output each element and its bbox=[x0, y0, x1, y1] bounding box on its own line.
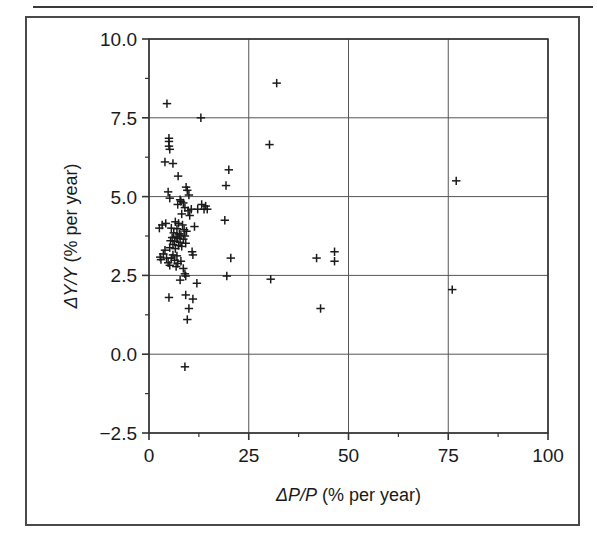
data-point bbox=[176, 276, 184, 284]
data-point bbox=[166, 194, 174, 202]
data-point bbox=[197, 114, 205, 122]
x-tick-label: 75 bbox=[438, 445, 459, 466]
x-tick-label: 50 bbox=[338, 445, 359, 466]
data-point bbox=[448, 285, 456, 293]
y-tick-label: 0.0 bbox=[111, 344, 137, 365]
data-point bbox=[227, 254, 235, 262]
data-point bbox=[189, 295, 197, 303]
data-point bbox=[178, 221, 186, 229]
data-point bbox=[452, 177, 460, 185]
data-point bbox=[185, 211, 193, 219]
x-tick-label: 0 bbox=[144, 445, 155, 466]
data-point bbox=[161, 158, 169, 166]
data-point bbox=[225, 166, 233, 174]
data-point bbox=[265, 140, 273, 148]
data-points bbox=[155, 79, 460, 371]
data-point bbox=[164, 188, 172, 196]
x-tick-label: 100 bbox=[532, 445, 564, 466]
data-point bbox=[182, 291, 190, 299]
data-point bbox=[181, 363, 189, 371]
y-tick-label: 7.5 bbox=[111, 108, 137, 129]
plot-axes bbox=[142, 39, 548, 440]
data-point bbox=[223, 272, 231, 280]
data-point bbox=[221, 216, 229, 224]
top-rule-divider bbox=[33, 6, 593, 8]
y-tick-label: 10.0 bbox=[100, 29, 137, 50]
data-point bbox=[222, 181, 230, 189]
data-point bbox=[165, 293, 173, 301]
scatter-chart: −2.50.02.55.07.510.00255075100ΔP/P (% pe… bbox=[27, 18, 578, 524]
figure-page: −2.50.02.55.07.510.00255075100ΔP/P (% pe… bbox=[0, 0, 597, 536]
y-axis-title: ΔY/Y (% per year) bbox=[61, 163, 81, 309]
figure-frame: −2.50.02.55.07.510.00255075100ΔP/P (% pe… bbox=[25, 16, 580, 526]
data-point bbox=[183, 315, 191, 323]
data-point bbox=[266, 275, 274, 283]
data-point bbox=[185, 304, 193, 312]
y-tick-label: 2.5 bbox=[111, 265, 137, 286]
data-point bbox=[174, 172, 182, 180]
x-tick-label: 25 bbox=[238, 445, 259, 466]
data-point bbox=[169, 159, 177, 167]
data-point bbox=[330, 257, 338, 265]
x-axis-title: ΔP/P (% per year) bbox=[275, 485, 421, 505]
data-point bbox=[330, 248, 338, 256]
data-point bbox=[185, 191, 193, 199]
data-point bbox=[163, 99, 171, 107]
data-point bbox=[190, 222, 198, 230]
data-point bbox=[312, 254, 320, 262]
y-tick-label: −2.5 bbox=[99, 423, 137, 444]
data-point bbox=[272, 79, 280, 87]
y-tick-label: 5.0 bbox=[111, 187, 137, 208]
data-point bbox=[179, 264, 187, 272]
data-point bbox=[193, 279, 201, 287]
data-point bbox=[316, 304, 324, 312]
gridlines bbox=[149, 39, 548, 433]
